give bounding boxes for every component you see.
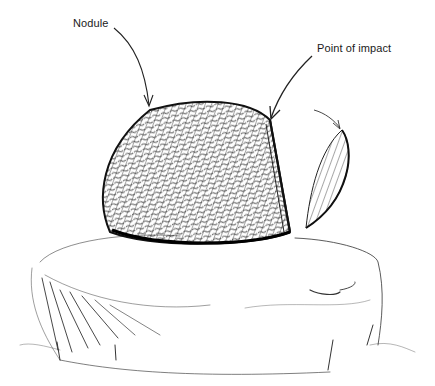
point-of-impact-label: Point of impact	[317, 42, 391, 54]
impact-arrow	[270, 56, 312, 119]
flake	[306, 130, 349, 228]
flake-motion-arrow	[314, 110, 340, 129]
anvil-stone	[20, 235, 415, 374]
nodule-stone	[103, 102, 290, 244]
nodule-arrow	[114, 28, 153, 106]
sketch-illustration	[0, 0, 435, 386]
diagram-canvas: Nodule Point of impact	[0, 0, 435, 386]
nodule-label: Nodule	[73, 17, 108, 29]
